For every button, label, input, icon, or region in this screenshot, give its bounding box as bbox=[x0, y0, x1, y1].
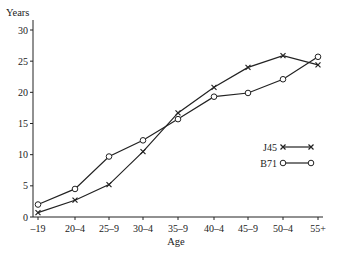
x-tick-label: 45–9 bbox=[238, 223, 258, 234]
series-j45 bbox=[36, 53, 321, 215]
circle-marker-icon bbox=[280, 160, 286, 166]
y-axis-title: Years bbox=[6, 7, 29, 18]
x-tick-label: 35–9 bbox=[168, 223, 188, 234]
circle-marker-icon bbox=[315, 54, 321, 60]
circle-marker-icon bbox=[140, 138, 146, 144]
x-tick-label: 50–4 bbox=[273, 223, 293, 234]
y-tick-label: 25 bbox=[18, 56, 28, 67]
legend-label: J45 bbox=[263, 142, 277, 153]
x-tick-label: –19 bbox=[30, 223, 46, 234]
x-tick-label: 20–4 bbox=[65, 223, 85, 234]
legend-item-j45: J45 bbox=[263, 142, 313, 153]
x-tick-label: 55+ bbox=[310, 223, 326, 234]
circle-marker-icon bbox=[175, 116, 181, 122]
series-b71 bbox=[35, 54, 321, 207]
line-chart: 051015202530–1920–425–930–435–940–445–95… bbox=[0, 0, 351, 258]
y-tick-label: 5 bbox=[23, 180, 28, 191]
circle-marker-icon bbox=[308, 160, 314, 166]
x-tick-label: 30–4 bbox=[133, 223, 153, 234]
circle-marker-icon bbox=[72, 186, 78, 192]
circle-marker-icon bbox=[280, 76, 286, 82]
y-tick-label: 20 bbox=[18, 87, 28, 98]
cross-marker-icon bbox=[212, 85, 217, 90]
y-tick-label: 15 bbox=[18, 118, 28, 129]
y-tick-label: 0 bbox=[23, 212, 28, 223]
cross-marker-icon bbox=[107, 182, 112, 187]
axes: 051015202530–1920–425–930–435–940–445–95… bbox=[18, 20, 326, 234]
circle-marker-icon bbox=[35, 202, 41, 208]
x-tick-label: 40–4 bbox=[204, 223, 224, 234]
series-group bbox=[35, 53, 321, 215]
circle-marker-icon bbox=[211, 94, 217, 100]
legend-item-b71: B71 bbox=[260, 158, 313, 169]
legend-label: B71 bbox=[260, 158, 277, 169]
y-tick-label: 30 bbox=[18, 25, 28, 36]
x-tick-label: 25–9 bbox=[99, 223, 119, 234]
x-axis-title: Age bbox=[167, 236, 185, 247]
circle-marker-icon bbox=[245, 90, 251, 96]
series-line bbox=[38, 56, 318, 213]
circle-marker-icon bbox=[106, 154, 112, 160]
cross-marker-icon bbox=[141, 149, 146, 154]
cross-marker-icon bbox=[176, 110, 181, 115]
series-line bbox=[38, 57, 318, 205]
legend: J45B71 bbox=[260, 142, 313, 169]
y-tick-label: 10 bbox=[18, 149, 28, 160]
